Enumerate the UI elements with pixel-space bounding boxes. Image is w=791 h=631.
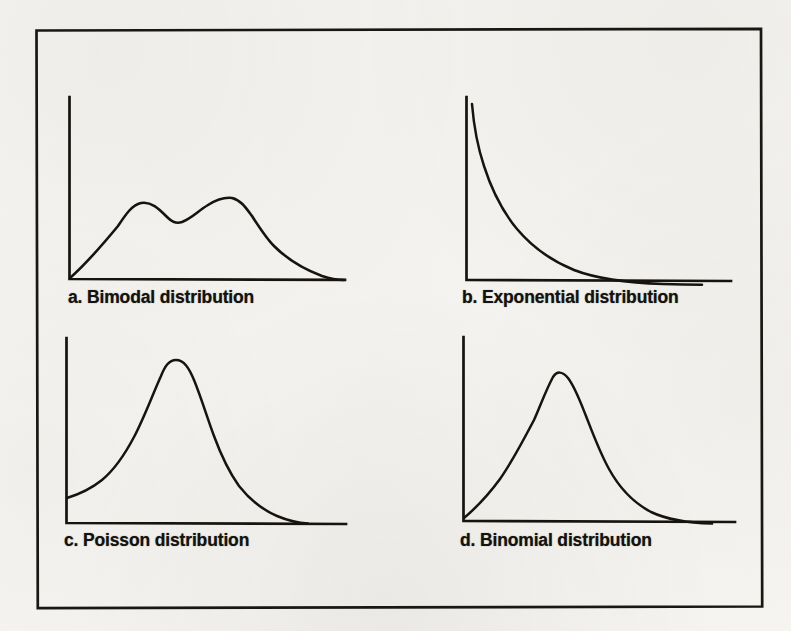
panel-b-caption: b. Exponential distribution (462, 287, 679, 308)
panel-b-exponential (467, 97, 732, 285)
panel-b-axes (467, 97, 732, 281)
panel-d-curve (464, 373, 712, 524)
panel-c-axes (67, 338, 347, 524)
panel-a-bimodal (70, 97, 346, 280)
figure-page: a. Bimodal distribution b. Exponential d… (0, 0, 791, 631)
panel-d-axes (464, 337, 736, 522)
panel-a-axes (70, 97, 346, 280)
panel-a-caption: a. Bimodal distribution (68, 287, 254, 308)
panel-c-curve (67, 360, 308, 524)
panel-a-curve (70, 198, 344, 280)
panel-d-caption: d. Binomial distribution (460, 530, 652, 551)
panel-b-curve (472, 104, 702, 285)
panel-c-caption: c. Poisson distribution (64, 530, 249, 551)
panel-d-binomial (464, 337, 736, 524)
panel-c-poisson (67, 338, 347, 524)
